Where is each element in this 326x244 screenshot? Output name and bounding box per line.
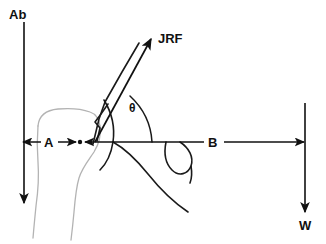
joint-reaction-force-label: JRF: [158, 31, 183, 46]
diagram-svg: Ab JRF θ A B W: [0, 0, 326, 244]
fulcrum-point: [78, 140, 82, 144]
humerus-outline: [33, 109, 100, 240]
coracoid-outline: [165, 142, 192, 183]
scapula-glenoid-outline: [100, 100, 188, 212]
moment-arm-a-label: A: [44, 135, 54, 150]
moment-arm-b-label: B: [208, 135, 217, 150]
abduction-force-label: Ab: [9, 7, 26, 22]
weight-label: W: [299, 218, 312, 233]
joint-reaction-force-vector: [95, 39, 151, 142]
angle-label: θ: [129, 101, 136, 115]
deltoid-muscle-lines: [93, 43, 139, 144]
figure-canvas: Ab JRF θ A B W: [0, 0, 326, 244]
